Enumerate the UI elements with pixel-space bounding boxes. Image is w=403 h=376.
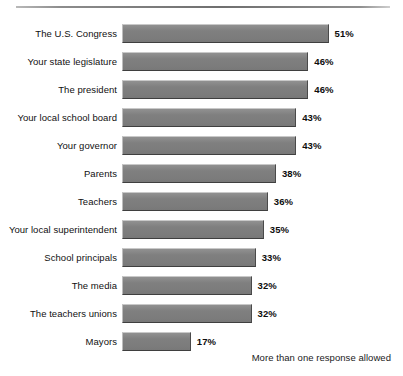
bar-value-label: 51% — [335, 28, 354, 39]
bar — [122, 192, 268, 211]
bar-value-label: 32% — [258, 308, 277, 319]
bar-value-label: 35% — [270, 224, 289, 235]
bar-row: Teachers36% — [0, 187, 403, 215]
bar-track: 36% — [122, 192, 403, 211]
bar-row: The president46% — [0, 75, 403, 103]
bar-value-label: 43% — [302, 140, 321, 151]
bar-category-label: Your governor — [0, 140, 122, 151]
bar-row: Your governor43% — [0, 131, 403, 159]
bar-category-label: The U.S. Congress — [0, 28, 122, 39]
bar-track: 32% — [122, 304, 403, 323]
bar-chart-plot-area: The U.S. Congress51%Your state legislatu… — [0, 19, 403, 355]
bar — [122, 332, 191, 351]
bar-row: Your state legislature46% — [0, 47, 403, 75]
bar-row: Your local school board43% — [0, 103, 403, 131]
bar-category-label: School principals — [0, 252, 122, 263]
bar-category-label: Mayors — [0, 336, 122, 347]
bar-row: The teachers unions32% — [0, 299, 403, 327]
bar-category-label: Teachers — [0, 196, 122, 207]
bar-category-label: Your local superintendent — [0, 224, 122, 235]
bar-track: 33% — [122, 248, 403, 267]
bar — [122, 276, 252, 295]
bar-track: 17% — [122, 332, 403, 351]
bar — [122, 248, 256, 267]
bar-track: 35% — [122, 220, 403, 239]
bar-category-label: Parents — [0, 168, 122, 179]
bar-row: Your local superintendent35% — [0, 215, 403, 243]
chart-footnote: More than one response allowed — [252, 352, 391, 363]
bar — [122, 136, 296, 155]
bar — [122, 80, 308, 99]
bar-track: 43% — [122, 136, 403, 155]
bar-category-label: The teachers unions — [0, 308, 122, 319]
bar-row: The media32% — [0, 271, 403, 299]
bar-category-label: Your state legislature — [0, 56, 122, 67]
bar-track: 46% — [122, 52, 403, 71]
bar-value-label: 43% — [302, 112, 321, 123]
bar-category-label: Your local school board — [0, 112, 122, 123]
bar-value-label: 46% — [314, 56, 333, 67]
bar — [122, 220, 264, 239]
bar-category-label: The president — [0, 84, 122, 95]
bar-track: 51% — [122, 24, 403, 43]
bar-value-label: 33% — [262, 252, 281, 263]
bar-track: 43% — [122, 108, 403, 127]
bar-track: 38% — [122, 164, 403, 183]
bar-row: School principals33% — [0, 243, 403, 271]
bar-row: Parents38% — [0, 159, 403, 187]
bar-value-label: 36% — [274, 196, 293, 207]
bar — [122, 164, 276, 183]
bar-track: 32% — [122, 276, 403, 295]
bar-value-label: 17% — [197, 336, 216, 347]
bar — [122, 304, 252, 323]
bar — [122, 24, 329, 43]
bar-value-label: 38% — [282, 168, 301, 179]
bar-track: 46% — [122, 80, 403, 99]
bar-value-label: 46% — [314, 84, 333, 95]
bar — [122, 108, 296, 127]
bar — [122, 52, 308, 71]
top-divider-rule — [16, 6, 390, 8]
bar-value-label: 32% — [258, 280, 277, 291]
bar-category-label: The media — [0, 280, 122, 291]
chart-container: The U.S. Congress51%Your state legislatu… — [0, 0, 403, 376]
bar-row: Mayors17% — [0, 327, 403, 355]
bar-row: The U.S. Congress51% — [0, 19, 403, 47]
